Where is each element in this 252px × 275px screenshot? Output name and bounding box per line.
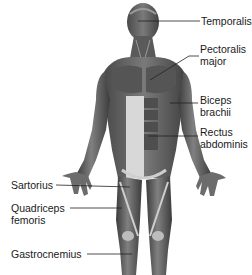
label-text: brachii xyxy=(200,106,232,118)
label-text: Sartorius xyxy=(11,179,53,191)
right-leg xyxy=(146,176,172,275)
label-temporalis: Temporalis xyxy=(201,15,252,27)
label-gastrocnemius: Gastrocnemius xyxy=(11,248,82,260)
muscle-diagram: Temporalis Pectoralis major Biceps brach… xyxy=(0,0,252,275)
label-text: abdominis xyxy=(200,138,248,150)
label-pectoralis-major: Pectoralis major xyxy=(200,43,246,67)
label-text: femoris xyxy=(11,214,65,226)
left-arm xyxy=(76,72,110,178)
label-text: Temporalis xyxy=(201,15,252,27)
label-quadriceps-femoris: Quadriceps femoris xyxy=(11,202,65,226)
label-rectus-abdominis: Rectus abdominis xyxy=(200,126,248,150)
label-text: Quadriceps xyxy=(11,202,65,214)
label-text: major xyxy=(200,55,246,67)
label-text: Pectoralis xyxy=(200,43,246,55)
label-biceps-brachii: Biceps brachii xyxy=(200,94,232,118)
right-arm xyxy=(178,72,212,178)
label-text: Biceps xyxy=(200,94,232,106)
label-sartorius: Sartorius xyxy=(11,179,53,191)
left-leg xyxy=(116,176,142,275)
label-text: Rectus xyxy=(200,126,248,138)
label-text: Gastrocnemius xyxy=(11,248,82,260)
